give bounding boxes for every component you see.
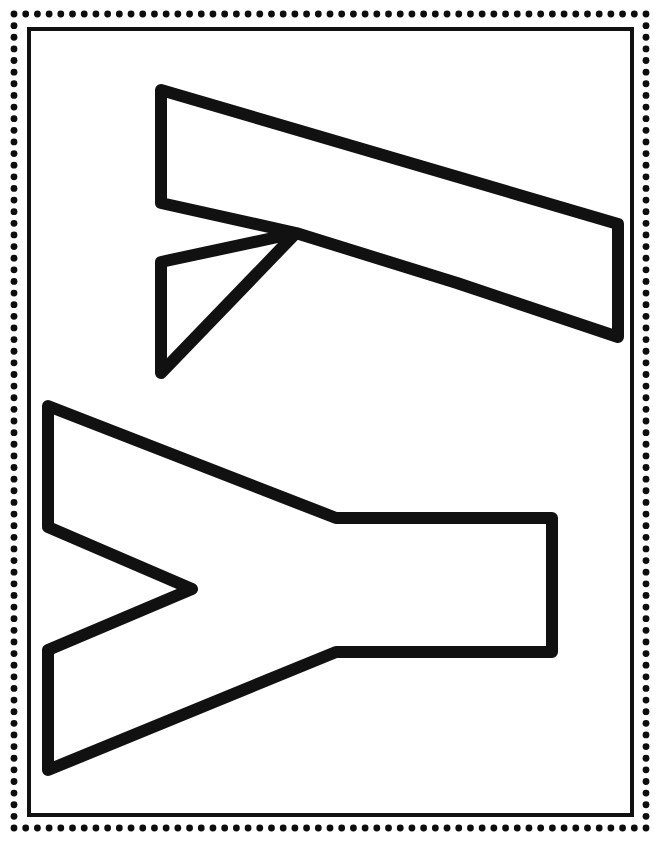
border-dot [643,313,650,320]
border-dot [643,592,650,599]
border-dot [643,813,650,820]
border-dot [11,80,18,87]
border-dot [643,243,650,250]
border-dot [163,825,170,832]
border-dot [502,825,509,832]
page-artwork [0,0,660,842]
border-dot [409,11,416,18]
border-dot [116,11,123,18]
border-dot [221,825,228,832]
border-dot [514,825,521,832]
border-dot [643,697,650,704]
border-dot [643,534,650,541]
border-dot [643,557,650,564]
border-dot [596,11,603,18]
border-dot [11,441,18,448]
border-dot [11,743,18,750]
border-dot [420,825,427,832]
border-dot [327,825,334,832]
border-dot [490,11,497,18]
border-dot [11,220,18,227]
border-dot [643,418,650,425]
border-dot [385,825,392,832]
border-dot [643,278,650,285]
border-dot [268,825,275,832]
border-dot [11,534,18,541]
border-dot [350,825,357,832]
border-dot [11,569,18,576]
border-dot [549,11,556,18]
border-dot [303,11,310,18]
border-dot [11,243,18,250]
border-dot [11,336,18,343]
border-dot [11,487,18,494]
border-dot [479,825,486,832]
border-dot [643,371,650,378]
border-dot [11,732,18,739]
border-dot [643,673,650,680]
border-dot [11,45,18,52]
border-dot [11,348,18,355]
border-dot [233,11,240,18]
border-dot [93,11,100,18]
border-dot [11,57,18,64]
border-dot [280,825,287,832]
border-dot [11,499,18,506]
border-dot [643,34,650,41]
border-dot [572,825,579,832]
border-dot [526,825,533,832]
border-dot [34,825,41,832]
border-dot [174,11,181,18]
border-dot [11,685,18,692]
border-dot [46,11,53,18]
border-dot [584,825,591,832]
border-dot [643,139,650,146]
border-dot [643,220,650,227]
border-dot [643,127,650,134]
border-dot [643,464,650,471]
border-dot [643,336,650,343]
border-dot [210,825,217,832]
border-dot [643,685,650,692]
border-dot [327,11,334,18]
border-dot [631,11,638,18]
border-dot [315,825,322,832]
border-dot [643,115,650,122]
border-dot [198,11,205,18]
border-dot [643,22,650,29]
border-dot [163,11,170,18]
border-dot [643,801,650,808]
border-dot [643,662,650,669]
border-dot [643,232,650,239]
border-dot [34,11,41,18]
border-dot [643,627,650,634]
border-dot [11,92,18,99]
border-dot [643,511,650,518]
border-dot [607,825,614,832]
border-dot [596,825,603,832]
border-dot [291,11,298,18]
border-dot [11,359,18,366]
border-dot [11,755,18,762]
border-dot [69,11,76,18]
border-dot [11,813,18,820]
border-dot [11,673,18,680]
border-dot [490,825,497,832]
border-dot [11,325,18,332]
border-dot [233,825,240,832]
border-dot [631,825,638,832]
border-dot [362,825,369,832]
border-dot [643,11,650,18]
border-dot [11,301,18,308]
border-dot [11,766,18,773]
border-dot [11,150,18,157]
border-dot [11,650,18,657]
border-dot [57,825,64,832]
border-dot [537,11,544,18]
border-dot [11,313,18,320]
border-dot [11,476,18,483]
border-dot [584,11,591,18]
border-dot [11,255,18,262]
border-dot [256,825,263,832]
border-dot [11,580,18,587]
